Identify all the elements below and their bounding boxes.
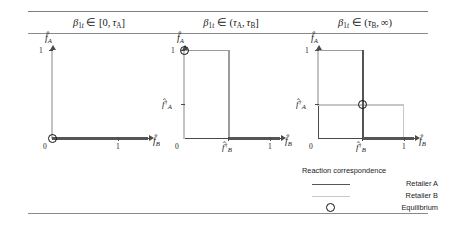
retailer-b-curve-vertical-right <box>228 50 230 139</box>
x-tick-label-1: 1 <box>116 142 120 151</box>
legend-item-retailer-b: Retailer B <box>302 190 438 202</box>
y-tick-label-1: 1 <box>39 46 43 55</box>
x-axis-title: f̂B <box>419 135 426 147</box>
x-tick-label-1: 1 <box>402 142 406 151</box>
table-rule-top <box>28 11 428 12</box>
y-tick-1 <box>49 50 53 51</box>
legend-item-equilibrium: Equilibrium <box>302 202 438 214</box>
legend-label-retailer-b: Retailer B <box>406 190 438 202</box>
table-rule-middle <box>28 33 428 34</box>
x-tick-1 <box>118 137 119 141</box>
legend-swatch-equilibrium-circle-icon <box>326 203 335 212</box>
x-tick-1 <box>270 137 271 141</box>
retailer-b-curve-top <box>184 50 229 52</box>
legend-item-retailer-a: Retailer A <box>302 178 438 190</box>
y-tick-f-a-dagger <box>315 104 319 105</box>
panel-3: 1 f̂†A f̂†B 1 0 f̂A f̂B <box>288 38 438 160</box>
retailer-a-curve-vertical <box>362 50 364 139</box>
panel-header-1: β1t ∈ [0, τA] <box>34 14 164 32</box>
legend-label-equilibrium: Equilibrium <box>401 202 438 214</box>
x-tick-label-1: 1 <box>268 142 272 151</box>
legend-swatch-retailer-b-icon <box>312 196 350 198</box>
panel-header-2: β1t ∈ (τA, τB] <box>166 14 296 32</box>
equilibrium-marker <box>358 100 367 109</box>
y-tick-label-f-a-dagger: f̂†A <box>162 98 172 110</box>
x-tick-label-f-b-dagger: f̂†B <box>356 141 366 153</box>
y-tick-f-a-dagger <box>181 104 185 105</box>
y-tick-label-1: 1 <box>171 46 175 55</box>
panel-2: 1 f̂†A f̂†B 1 0 f̂A f̂B <box>154 38 304 160</box>
y-tick-label-f-a-dagger: f̂†A <box>296 98 306 110</box>
retailer-b-curve-vertical-right <box>403 104 405 138</box>
y-axis-title: f̂A <box>177 32 184 44</box>
y-tick-label-1: 1 <box>305 46 309 55</box>
retailer-b-curve-top <box>318 50 363 52</box>
origin-label: 0 <box>175 142 179 151</box>
origin-label: 0 <box>309 142 313 151</box>
equilibrium-marker <box>48 134 57 143</box>
retailer-a-curve-horizontal <box>362 137 414 139</box>
reaction-correspondence-figure: β1t ∈ [0, τA] β1t ∈ (τA, τB] β1t ∈ (τB, … <box>0 0 456 235</box>
y-axis-title: f̂A <box>45 32 52 44</box>
retailer-b-curve-vertical-left <box>183 50 185 139</box>
legend-label-retailer-a: Retailer A <box>406 178 438 190</box>
legend-swatch-retailer-a-icon <box>312 184 350 186</box>
retailer-b-curve <box>51 50 53 139</box>
legend: Reaction correspondence Retailer A Retai… <box>302 166 438 214</box>
retailer-a-curve <box>228 137 280 139</box>
retailer-b-curve-vertical-left <box>317 50 319 106</box>
retailer-a-curve <box>52 137 148 139</box>
y-tick-1 <box>315 50 319 51</box>
panel-1: 1 1 0 f̂A f̂B <box>22 38 172 160</box>
equilibrium-marker <box>180 46 189 55</box>
x-tick-label-f-b-dagger: f̂†B <box>222 141 232 153</box>
panel-header-3: β1t ∈ (τB, ∞) <box>300 14 430 32</box>
legend-title: Reaction correspondence <box>302 166 438 175</box>
y-axis-title: f̂A <box>311 32 318 44</box>
origin-label: 0 <box>43 142 47 151</box>
x-tick-1 <box>404 137 405 141</box>
